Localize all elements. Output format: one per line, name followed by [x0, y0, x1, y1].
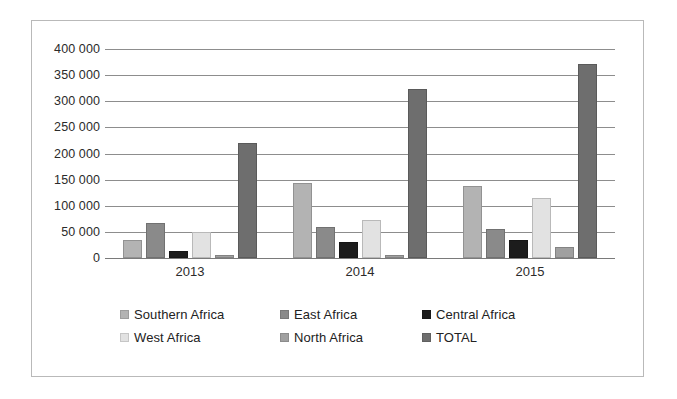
bar[interactable]	[408, 89, 427, 258]
bar[interactable]	[192, 232, 211, 258]
y-axis-tick-label: 350 000	[32, 68, 100, 82]
bar[interactable]	[238, 143, 257, 258]
legend-item[interactable]: TOTAL	[422, 330, 477, 345]
y-axis: 400 000350 000300 000250 000200 000150 0…	[32, 49, 100, 258]
bar[interactable]	[486, 229, 505, 258]
axis-baseline	[105, 258, 615, 259]
y-axis-tick-label: 400 000	[32, 42, 100, 56]
chart-frame: 400 000350 000300 000250 000200 000150 0…	[31, 20, 644, 377]
x-axis-tick-label: 2013	[176, 264, 205, 279]
x-axis-tick-label: 2015	[516, 264, 545, 279]
bar[interactable]	[316, 227, 335, 258]
bar-group	[445, 49, 615, 258]
bar[interactable]	[169, 251, 188, 258]
bar[interactable]	[123, 240, 142, 258]
bar[interactable]	[215, 255, 234, 258]
legend-label: East Africa	[294, 307, 357, 322]
bar[interactable]	[146, 223, 165, 258]
bar[interactable]	[293, 183, 312, 258]
y-axis-tick-label: 100 000	[32, 199, 100, 213]
legend-label: TOTAL	[436, 330, 477, 345]
bar[interactable]	[339, 242, 358, 258]
legend-item[interactable]: Central Africa	[422, 307, 515, 322]
legend-item[interactable]: North Africa	[280, 330, 363, 345]
legend-label: Central Africa	[436, 307, 515, 322]
legend-label: West Africa	[134, 330, 201, 345]
bar[interactable]	[463, 186, 482, 258]
legend-swatch-icon	[422, 333, 431, 342]
y-axis-tick-label: 300 000	[32, 94, 100, 108]
legend-label: Southern Africa	[134, 307, 224, 322]
legend-swatch-icon	[120, 310, 129, 319]
y-axis-tick-label: 150 000	[32, 173, 100, 187]
bar[interactable]	[509, 240, 528, 258]
legend-label: North Africa	[294, 330, 363, 345]
y-axis-tick-label: 50 000	[32, 225, 100, 239]
legend-swatch-icon	[120, 333, 129, 342]
y-axis-tick-label: 250 000	[32, 120, 100, 134]
bar[interactable]	[362, 220, 381, 258]
legend-item[interactable]: Southern Africa	[120, 307, 224, 322]
chart-legend: Southern AfricaEast AfricaCentral Africa…	[120, 303, 560, 349]
bar[interactable]	[555, 247, 574, 258]
y-axis-tick-label: 200 000	[32, 147, 100, 161]
bar[interactable]	[532, 198, 551, 258]
plot-area	[105, 49, 615, 258]
legend-row: West AfricaNorth AfricaTOTAL	[120, 326, 560, 349]
bar-group	[275, 49, 445, 258]
legend-swatch-icon	[422, 310, 431, 319]
legend-swatch-icon	[280, 333, 289, 342]
bar-group	[105, 49, 275, 258]
legend-item[interactable]: East Africa	[280, 307, 357, 322]
y-axis-tick-label: 0	[32, 251, 100, 265]
legend-swatch-icon	[280, 310, 289, 319]
bar[interactable]	[385, 255, 404, 258]
x-axis-tick-label: 2014	[346, 264, 375, 279]
x-axis: 201320142015	[105, 264, 615, 284]
legend-item[interactable]: West Africa	[120, 330, 201, 345]
legend-row: Southern AfricaEast AfricaCentral Africa	[120, 303, 560, 326]
bar[interactable]	[578, 64, 597, 258]
